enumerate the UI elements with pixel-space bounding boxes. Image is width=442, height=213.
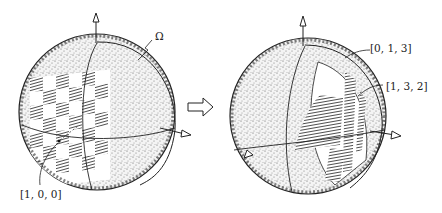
axis-arrow-right-icon xyxy=(391,131,401,139)
axis-arrow-up-icon xyxy=(300,16,306,26)
axis-arrow-up-icon xyxy=(93,13,99,22)
point-label-100: [1, 0, 0] xyxy=(20,188,62,200)
label-132: [1, 3, 2] xyxy=(386,80,428,92)
omega-label: Ω xyxy=(155,30,164,42)
diagram-canvas xyxy=(0,0,442,213)
axis-arrow-right-icon xyxy=(181,130,191,137)
label-013: [0, 1, 3] xyxy=(370,42,412,54)
transform-arrow-icon xyxy=(188,98,213,116)
left-sphere xyxy=(19,13,191,190)
